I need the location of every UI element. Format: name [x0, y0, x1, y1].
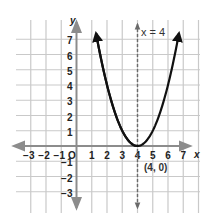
x-tick-label: 1	[89, 150, 95, 161]
symmetry-line-label: x = 4	[141, 26, 165, 38]
parabola-left-branch	[96, 33, 137, 146]
y-tick-label: 5	[67, 66, 73, 77]
y-tick-label: 1	[67, 127, 73, 138]
x-tick-label: 3	[119, 150, 125, 161]
x-tick-label: −3	[23, 150, 35, 161]
tick-labels: −3−2−112345677654321−1−2−3	[23, 35, 186, 199]
x-axis-label: x	[193, 149, 200, 160]
x-tick-label: 7	[180, 150, 186, 161]
y-tick-label: 6	[67, 51, 73, 62]
y-tick-label: 7	[67, 35, 73, 46]
y-tick-label: −3	[61, 188, 73, 199]
x-tick-label: 6	[165, 150, 171, 161]
y-tick-label: 2	[67, 112, 73, 123]
y-tick-label: 3	[67, 96, 73, 107]
x-tick-label: 5	[150, 150, 156, 161]
x-tick-label: 2	[104, 150, 110, 161]
vertex-label: (4, 0)	[144, 162, 167, 173]
x-tick-label: −2	[38, 150, 50, 161]
origin-label: O	[68, 150, 76, 161]
y-tick-label: 4	[67, 81, 73, 92]
parabola-graph: −3−2−112345677654321−1−2−3 x y O (4, 0) …	[0, 0, 210, 223]
y-axis-label: y	[69, 15, 76, 26]
grid-lines	[16, 20, 200, 213]
y-tick-label: −2	[61, 173, 73, 184]
